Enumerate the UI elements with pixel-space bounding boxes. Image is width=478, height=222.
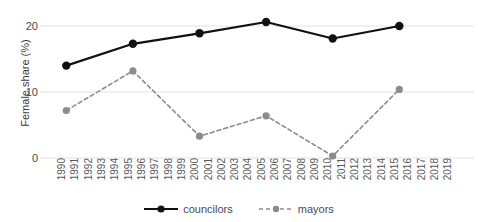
x-tick-label: 2004 [243,158,253,198]
x-tick-label: 2013 [363,158,373,198]
legend-item-councilors[interactable]: councilors [144,203,233,215]
data-point-councilors[interactable] [195,29,203,37]
data-point-mayors[interactable] [63,107,70,114]
x-tick-label: 1992 [84,158,94,198]
data-point-mayors[interactable] [129,67,136,74]
x-tick-label: 1997 [150,158,160,198]
x-tick-label: 2008 [297,158,307,198]
x-tick-label: 2014 [377,158,387,198]
x-tick-label: 2000 [190,158,200,198]
x-tick-label: 1991 [70,158,80,198]
y-tick-label: 20 [16,21,38,32]
x-tick-label: 2015 [390,158,400,198]
y-tick-label: 10 [16,87,38,98]
series-layer [62,18,403,160]
x-tick-label: 1998 [164,158,174,198]
chart-figure: Female share (%) 01020 19901991199219931… [0,0,478,222]
x-tick-label: 2005 [257,158,267,198]
x-tick-label: 1999 [177,158,187,198]
data-point-mayors[interactable] [396,86,403,93]
y-axis-tick-labels: 01020 [0,0,38,222]
x-tick-label: 2018 [430,158,440,198]
x-tick-label: 1995 [124,158,134,198]
x-tick-label: 2012 [350,158,360,198]
x-tick-label: 1990 [57,158,67,198]
plot-area [40,8,474,160]
legend-label-councilors: councilors [183,204,233,215]
x-axis-tick-labels: 1990199119921993199419951996199719981999… [40,160,478,202]
data-point-mayors[interactable] [263,112,270,119]
legend-swatch-councilors [144,203,178,215]
x-tick-label: 1996 [137,158,147,198]
data-point-councilors[interactable] [395,22,403,30]
x-tick-label: 2007 [283,158,293,198]
x-tick-label: 2017 [417,158,427,198]
legend-swatch-mayors [259,203,293,215]
x-tick-label: 2009 [310,158,320,198]
data-point-councilors[interactable] [262,18,270,26]
x-tick-label: 1994 [110,158,120,198]
x-tick-label: 2006 [270,158,280,198]
data-point-councilors[interactable] [329,34,337,42]
gridlines [40,26,474,158]
series-line-councilors [66,22,399,66]
x-tick-label: 2002 [217,158,227,198]
x-tick-label: 2011 [337,158,347,198]
x-tick-label: 2016 [403,158,413,198]
plot-svg [40,8,474,160]
x-tick-label: 2019 [443,158,453,198]
legend-label-mayors: mayors [298,204,334,215]
x-tick-label: 2001 [204,158,214,198]
x-tick-label: 2010 [323,158,333,198]
chart-legend: councilors mayors [0,198,478,220]
data-point-mayors[interactable] [196,133,203,140]
series-line-mayors [66,71,399,156]
x-tick-label: 2003 [230,158,240,198]
data-point-councilors[interactable] [129,40,137,48]
data-point-councilors[interactable] [62,61,70,69]
legend-item-mayors[interactable]: mayors [259,203,334,215]
x-tick-label: 1993 [97,158,107,198]
y-tick-label: 0 [16,153,38,164]
